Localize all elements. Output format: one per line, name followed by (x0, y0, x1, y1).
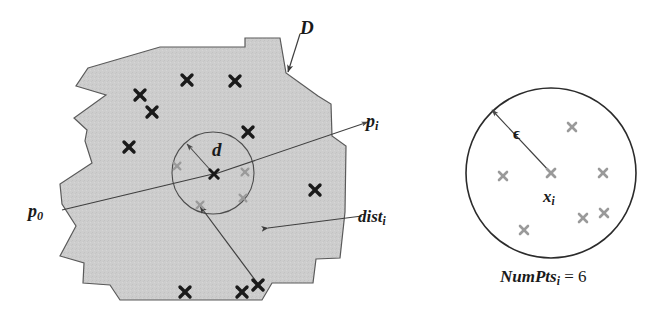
p0-subscript: 0 (37, 209, 43, 223)
pi-subscript: i (375, 119, 378, 133)
dist-base: dist (358, 207, 383, 226)
point-label-p0: p0 (28, 202, 43, 223)
epsilon-radius-arrow (492, 110, 551, 173)
numpts-equals: = (564, 267, 574, 286)
epsilon-neighbor-marker (520, 226, 528, 234)
density-region-group (60, 38, 346, 300)
epsilon-neighbor-marker (568, 123, 576, 131)
point-label-pi: pi (366, 112, 378, 133)
density-region-polygon (60, 38, 346, 300)
figure-canvas: D d p0 pi disti ϵ xi NumPtsi = 6 (0, 0, 667, 322)
epsilon-neighbor-marker (499, 172, 507, 180)
region-label-D: D (300, 18, 314, 37)
numpts-equation-label: NumPtsi = 6 (500, 268, 587, 288)
p0-base: p (28, 201, 37, 221)
numpts-value: 6 (578, 267, 587, 286)
dist-subscript: i (383, 215, 386, 228)
pi-base: p (366, 111, 375, 131)
numpts-name: NumPts (500, 267, 557, 286)
inner-radius-label-d: d (212, 140, 222, 159)
epsilon-center-marker (547, 169, 555, 177)
distance-label-dist-i: disti (358, 208, 386, 228)
epsilon-neighbor-marker (600, 209, 608, 217)
epsilon-neighbor-marker (599, 169, 607, 177)
epsilon-neighbor-marker (579, 214, 587, 222)
center-point-label-xi: xi (543, 188, 555, 208)
xi-base: x (543, 187, 552, 206)
epsilon-label: ϵ (513, 125, 520, 142)
xi-subscript: i (552, 195, 555, 208)
region-label-leader-line (288, 34, 300, 72)
